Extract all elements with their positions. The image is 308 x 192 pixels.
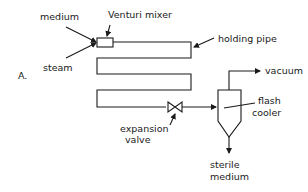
- holding-pipe: [97, 42, 191, 107]
- sterile-medium-label-2: medium: [210, 171, 249, 182]
- steam-arrow: [66, 43, 96, 58]
- medium-arrow: [66, 27, 96, 42]
- venturi-mixer-label: Venturi mixer: [108, 9, 172, 20]
- steam-input-label: steam: [43, 62, 73, 73]
- sterilization-diagram: A. medium steam Venturi mixer holding pi…: [0, 0, 308, 192]
- flash-cooler-label-2: cooler: [252, 107, 281, 118]
- expansion-valve: [168, 102, 182, 112]
- flash-cooler-label-1: flash: [258, 95, 281, 106]
- venturi-mixer-pointer: [107, 25, 110, 36]
- vacuum-line: [229, 71, 260, 90]
- flash-cooler: [218, 90, 241, 137]
- expansion-valve-label-2: valve: [125, 134, 151, 145]
- flash-cooler-pointer: [224, 103, 255, 108]
- expansion-valve-pointer: [170, 114, 175, 125]
- venturi-mixer: [97, 38, 113, 47]
- sterile-medium-label-1: sterile: [210, 159, 240, 170]
- expansion-valve-label-1: expansion: [120, 123, 169, 134]
- vacuum-label: vacuum: [265, 65, 303, 76]
- medium-input-label: medium: [40, 11, 79, 22]
- holding-pipe-pointer: [194, 38, 214, 47]
- panel-label: A.: [18, 70, 27, 81]
- holding-pipe-label: holding pipe: [218, 33, 277, 44]
